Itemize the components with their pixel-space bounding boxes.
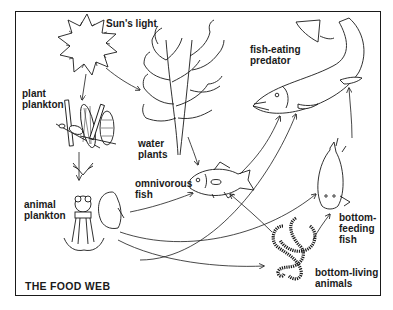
arrow-bottom-animals-to-omnivorous-fish [230, 194, 272, 232]
label-animal-plankton: animal plankton [24, 199, 66, 221]
omnivorous-fish-icon [190, 162, 254, 198]
arrow-animal-plankton-to-bottom-fish [120, 194, 316, 242]
arrow-animal-plankton-to-bottom-animals [118, 240, 264, 266]
water-plant-icon [143, 20, 224, 155]
arrow-bottom-fish-to-predator [349, 88, 352, 138]
label-sun: Sun's light [106, 18, 157, 29]
label-predator: fish-eating predator [250, 44, 301, 66]
label-plant-plankton: plant plankton [22, 88, 64, 110]
worm-icon [273, 218, 315, 279]
arrow-sun-to-water-plants [106, 68, 140, 90]
bottom-fish-icon [318, 138, 350, 209]
arrow-water-plants-to-omnivorous-fish [188, 137, 198, 165]
label-omnivorous-fish: omnivorous fish [135, 178, 192, 200]
label-water-plants: water plants [138, 138, 167, 160]
label-bottom-fish: bottom- feeding fish [339, 212, 376, 245]
arrow-omnivorous-fish-to-predator [240, 116, 280, 174]
arrow-sun-to-plant-plankton [82, 74, 86, 100]
plant-plankton-icon [56, 100, 116, 149]
food-web-diagram [0, 0, 393, 310]
animal-plankton-icon [64, 163, 124, 251]
label-bottom-animals: bottom-living animals [315, 267, 378, 289]
diagram-title: THE FOOD WEB [25, 280, 110, 292]
